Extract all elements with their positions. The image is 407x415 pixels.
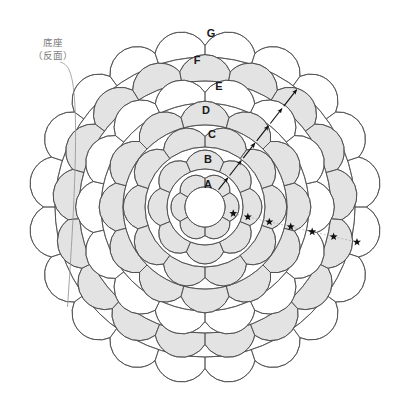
ring-letter-a: A xyxy=(204,178,212,190)
ring-letter-d: D xyxy=(202,104,210,116)
ring-letter-g: G xyxy=(207,27,216,39)
base-callout-line1: 底座 xyxy=(33,36,73,49)
ring-letter-f: F xyxy=(194,54,201,66)
ring-letter-b: B xyxy=(204,153,212,165)
mandala-diagram xyxy=(0,0,407,415)
ring-letter-e: E xyxy=(215,80,222,92)
ring-letter-c: C xyxy=(208,128,216,140)
base-callout: 底座 （反面） xyxy=(33,36,73,62)
figure-root: 底座 （反面） ABCDEFG xyxy=(0,0,407,415)
base-callout-line2: （反面） xyxy=(33,49,73,62)
center-core xyxy=(185,187,225,227)
